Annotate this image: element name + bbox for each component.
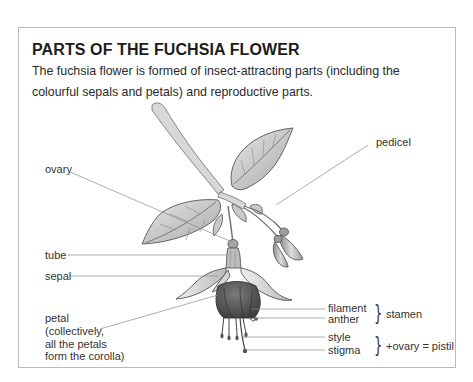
label-anther: anther	[328, 313, 359, 326]
flower-stamens-style	[222, 316, 256, 350]
stamen-brace: }	[374, 302, 382, 324]
flower-ovary-tube	[226, 240, 241, 269]
pistil-brace: }	[374, 334, 382, 356]
label-pedicel: pedicel	[376, 136, 411, 149]
flower-anthers	[220, 317, 257, 353]
label-pistil: +ovary = pistil	[386, 340, 454, 353]
lower-leaf	[142, 200, 221, 244]
label-style: style	[328, 331, 351, 344]
label-ovary: ovary	[45, 163, 72, 176]
label-sepal: sepal	[45, 270, 71, 283]
label-petal: petal (collectively, all the petals form…	[45, 312, 124, 363]
flower-buds	[273, 228, 303, 267]
label-stigma: stigma	[328, 344, 360, 357]
flower-corolla	[216, 282, 260, 319]
leader-pedicel	[276, 145, 368, 205]
label-stamen: stamen	[386, 308, 422, 321]
upper-leaf	[231, 128, 293, 190]
label-tube: tube	[45, 249, 66, 262]
stem	[152, 103, 246, 209]
